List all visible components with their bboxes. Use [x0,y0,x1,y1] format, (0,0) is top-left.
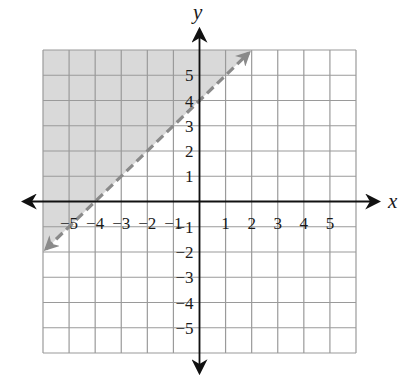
y-tick-label: 4 [185,92,194,111]
y-tick-label: 5 [185,66,194,85]
x-tick-label: 2 [247,214,256,233]
x-tick-label: −4 [86,214,105,233]
x-tick-label: 5 [326,214,335,233]
y-tick-label: −1 [175,218,193,237]
x-tick-label: −5 [60,214,78,233]
x-tick-label: 4 [300,214,309,233]
x-tick-label: 1 [221,214,230,233]
x-tick-label: −3 [112,214,130,233]
y-tick-label: −3 [175,268,193,287]
y-tick-label: 2 [185,142,194,161]
y-tick-label: −5 [175,319,193,338]
x-tick-label: 3 [274,214,283,233]
y-tick-label: −2 [175,243,193,262]
y-axis-label: y [191,0,203,24]
y-tick-label: −4 [175,294,194,313]
y-tick-label: 1 [185,167,194,186]
inequality-plot: −5−4−3−2−112345−5−4−3−2−112345 x y [0,0,419,384]
x-axis-label: x [387,189,398,213]
x-tick-label: −2 [138,214,156,233]
y-tick-label: 3 [185,117,194,136]
